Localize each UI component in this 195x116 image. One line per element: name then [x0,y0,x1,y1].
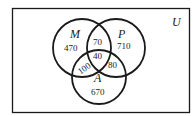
region-p-only: 710 [117,41,131,51]
region-m-and-p: 70 [93,37,103,47]
set-a-label: A [93,71,102,85]
region-m-and-p-and-a: 40 [93,51,103,61]
region-a-only: 670 [91,87,105,97]
set-p-label: P [117,27,126,41]
set-m-label: M [69,27,81,41]
venn-diagram: U M P A 470 710 670 70 40 80 100 [0,0,195,116]
region-m-only: 470 [64,43,78,53]
region-p-and-a: 80 [108,60,118,70]
universe-label: U [172,15,182,29]
